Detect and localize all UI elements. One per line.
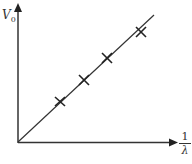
y-axis-symbol: V (2, 8, 11, 22)
x-axis-numerator: 1 (179, 131, 191, 144)
x-axis-denominator: λ (179, 144, 191, 156)
data-point-marker (136, 27, 146, 37)
y-axis-label: V0 (2, 8, 16, 24)
x-axis-arrow-icon (169, 139, 178, 147)
data-point-marker (102, 53, 112, 63)
plot-area (0, 0, 192, 164)
photoelectric-graph: V0 1 λ (0, 0, 192, 164)
y-axis-subscript: 0 (11, 15, 16, 24)
data-point-marker (55, 97, 65, 106)
data-point-marker (79, 75, 89, 85)
x-axis-label: 1 λ (179, 131, 191, 156)
